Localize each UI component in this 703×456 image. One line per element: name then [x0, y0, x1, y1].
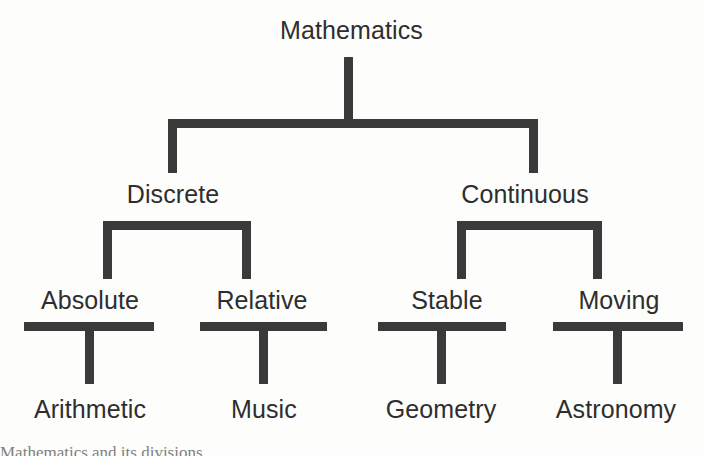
diagram-canvas: Mathematics Discrete Continuous Absolute…	[0, 0, 703, 456]
node-arithmetic: Arithmetic	[4, 397, 176, 422]
node-moving: Moving	[534, 288, 703, 313]
connector-discrete-bar	[103, 221, 251, 230]
connector-absolute-stem	[85, 322, 94, 384]
node-music: Music	[178, 397, 350, 422]
node-relative: Relative	[177, 288, 347, 313]
connector-discrete-arm-right	[242, 221, 251, 279]
node-stable: Stable	[362, 288, 532, 313]
caption-fragment: Mathematics and its divisions	[0, 443, 703, 456]
connector-root-arm-left	[168, 119, 177, 173]
connector-root-bar	[168, 119, 538, 128]
connector-moving-stem	[613, 322, 622, 384]
connector-stable-stem	[437, 322, 446, 384]
node-astronomy: Astronomy	[530, 397, 702, 422]
node-discrete: Discrete	[63, 182, 283, 207]
connector-relative-stem	[259, 322, 268, 384]
connector-discrete-arm-left	[103, 221, 112, 279]
node-continuous: Continuous	[415, 182, 635, 207]
connector-continuous-bar	[457, 221, 602, 230]
connector-continuous-arm-left	[457, 221, 466, 279]
node-absolute: Absolute	[5, 288, 175, 313]
connector-continuous-arm-right	[593, 221, 602, 279]
node-geometry: Geometry	[355, 397, 527, 422]
connector-root-stem	[344, 57, 353, 121]
node-mathematics: Mathematics	[0, 18, 703, 43]
connector-root-arm-right	[529, 119, 538, 173]
